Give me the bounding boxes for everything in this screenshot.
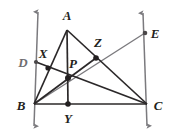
point-dot-e [143,31,148,36]
segment-ac [67,30,147,104]
vertex-label-c: C [154,99,163,112]
geometry-figure: A E D X Z P B C Y [0,0,170,133]
point-dot-p [65,75,71,81]
ray-group [34,12,147,126]
point-dot-d [34,60,38,64]
vertex-label-x: X [39,47,48,60]
vertex-label-y: Y [64,112,72,125]
ray-through-c-vertical [143,13,147,126]
vertex-label-e: E [151,27,160,40]
vertex-label-p: P [69,57,77,70]
vertex-label-z: Z [94,36,102,49]
cevian-a-to-y [67,30,68,104]
cevian-c-to-d [36,62,147,104]
vertex-label-d: D [18,56,27,69]
vertex-label-a: A [63,9,72,22]
point-dot-z [93,55,99,61]
point-dot-y [65,101,71,107]
ray-through-b-vertical [34,12,38,126]
vertex-label-b: B [17,99,26,112]
point-dot-x [45,65,50,70]
